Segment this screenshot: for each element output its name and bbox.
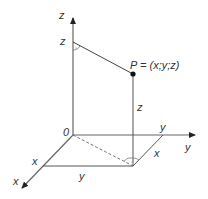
z-axis-label: z [58,9,65,21]
x-tick-label: x [31,155,38,167]
right-angle-dot-bottom [131,161,132,162]
right-angle-arc-bottom [124,158,139,161]
dashed-diagonal [73,135,133,166]
point-label: P = (x;y;z) [130,59,180,71]
x-axis-label: x [12,175,19,187]
origin-label: 0 [63,126,70,138]
x-projection-label: x [153,147,160,159]
x-axis [22,135,73,188]
right-angle-dot-top [75,47,76,48]
z-vertical-label: z [136,101,143,113]
y-projection-label: y [78,170,86,182]
diagram-canvas: z z P = (x;y;z) z 0 y y x x x y [0,0,208,199]
coordinate-diagram: z z P = (x;y;z) z 0 y y x x x y [0,0,208,199]
point-p-marker [130,71,135,76]
z-tick-label: z [59,35,66,47]
z-to-point-line [73,42,133,74]
y-axis-label: y [184,141,192,153]
y-tick-label: y [159,121,167,133]
